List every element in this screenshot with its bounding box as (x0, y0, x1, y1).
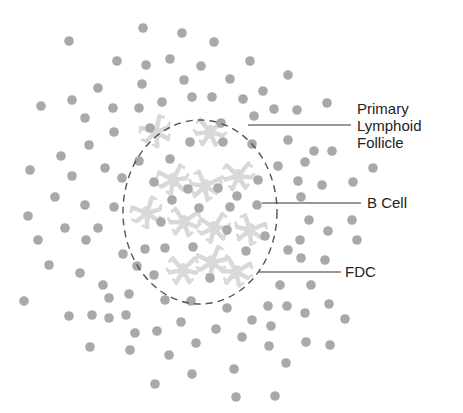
b-cell-dot (283, 135, 293, 145)
b-cell-dot (145, 123, 155, 133)
b-cell-dot (93, 83, 103, 93)
b-cell-dot (249, 111, 259, 121)
label-line: Primary (357, 100, 421, 117)
b-cell-dot (84, 140, 94, 150)
b-cell-dot (323, 226, 333, 236)
b-cell-dot (237, 332, 247, 342)
b-cell-dot (137, 79, 147, 89)
b-cell-dot (185, 137, 195, 147)
b-cell-dot (209, 37, 219, 47)
fdc-cell (230, 212, 270, 248)
b-cell-dot (112, 56, 122, 66)
b-cell-dot (167, 195, 177, 205)
b-cell-dot (87, 310, 97, 320)
b-cell-dot (85, 342, 95, 352)
label-fdc: FDC (345, 263, 376, 280)
b-cell-dot (216, 118, 226, 128)
b-cell-dot (140, 244, 150, 254)
b-cell-dot (125, 345, 135, 355)
b-cell-dot (218, 137, 228, 147)
b-cell-dot (245, 56, 255, 66)
b-cell-dot (187, 369, 197, 379)
b-cell-dot (93, 223, 103, 233)
b-cell-dot (317, 180, 327, 190)
b-cell-dot (269, 104, 279, 114)
b-cell-dot (157, 97, 167, 107)
fdc-cell (222, 163, 255, 189)
b-cell-dot (232, 191, 242, 201)
b-cell-dot (44, 260, 54, 270)
b-cell-dot (266, 321, 276, 331)
b-cell-dot (108, 103, 118, 113)
b-cell-dot (150, 379, 160, 389)
b-cell-dot (104, 293, 114, 303)
b-cell-dot (260, 231, 270, 241)
b-cell-dot (177, 28, 187, 38)
b-cell-dot (64, 311, 74, 321)
b-cell-dot (100, 163, 110, 173)
b-cell-dot (194, 203, 204, 213)
b-cell-dot (130, 328, 140, 338)
b-cell-dot (283, 70, 293, 80)
b-cell-dot (205, 273, 215, 283)
b-cell-dot (33, 235, 43, 245)
b-cell-dot (213, 183, 223, 193)
b-cell-dot (191, 338, 201, 348)
b-cell-dot (188, 242, 198, 252)
b-cell-dot (252, 200, 262, 210)
b-cell-dot (196, 61, 206, 71)
b-cell-dot (229, 364, 239, 374)
b-cell-dot (264, 341, 274, 351)
b-cell-dot (273, 161, 283, 171)
b-cell-dot (165, 154, 175, 164)
b-cell-dot (320, 255, 330, 265)
b-cell-dot (296, 192, 306, 202)
b-cell-dot (118, 249, 128, 259)
b-cell-dot (296, 253, 306, 263)
b-cell-dot (23, 211, 33, 221)
b-cell-dot (138, 23, 148, 33)
b-cell-dot (81, 235, 91, 245)
b-cell-dot (368, 163, 378, 173)
b-cell-dot (117, 173, 127, 183)
b-cell-dot (352, 235, 362, 245)
b-cell-dot (340, 314, 350, 324)
b-cell-dot (225, 74, 235, 84)
b-cell-dot (241, 246, 251, 256)
b-cell-dot (75, 268, 85, 278)
b-cell-dot (275, 280, 285, 290)
b-cell-dot (165, 54, 175, 64)
b-cell-dot (179, 75, 189, 85)
b-cell-dot (164, 350, 174, 360)
b-cell-dot (19, 296, 29, 306)
b-cell-dot (222, 303, 232, 313)
b-cell-dot (327, 146, 337, 156)
b-cell-dot (295, 235, 305, 245)
b-cell-dot (306, 280, 316, 290)
b-cell-dot (247, 315, 257, 325)
b-cell-dot (347, 215, 357, 225)
b-cell-dot (231, 392, 241, 402)
b-cell-dot (25, 165, 35, 175)
b-cell-dot (149, 270, 159, 280)
b-cell-dot (176, 317, 186, 327)
b-cell-dot (325, 340, 335, 350)
b-cell-dot (258, 86, 268, 96)
label-line: Lymphoid (357, 117, 421, 134)
b-cell-dot (293, 176, 303, 186)
label-primary-lymphoid-follicle: Primary Lymphoid Follicle (357, 100, 421, 151)
label-b-cell: B Cell (367, 194, 407, 211)
b-cell-dot (67, 95, 77, 105)
b-cell-dot (282, 301, 292, 311)
fdc-cell (136, 114, 176, 152)
b-cell-dot (348, 177, 358, 187)
b-cell-dot (134, 103, 144, 113)
b-cell-dot (64, 36, 74, 46)
b-cell-dot (152, 326, 162, 336)
b-cell-dot (124, 289, 134, 299)
fdc-cell (166, 257, 199, 284)
b-cell-dot (211, 324, 221, 334)
b-cell-dot (160, 295, 170, 305)
b-cell-dot (183, 184, 193, 194)
b-cell-dot (238, 94, 248, 104)
